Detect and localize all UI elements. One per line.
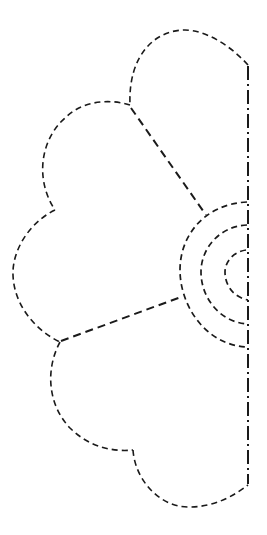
petal-lower-outline bbox=[51, 342, 133, 450]
petal-divider-lower bbox=[61, 297, 181, 341]
petal-divider-upper bbox=[131, 108, 206, 215]
center-ring-middle bbox=[201, 225, 247, 324]
petal-bottom-outline bbox=[133, 450, 248, 507]
center-ring-outer bbox=[180, 202, 247, 347]
petal-top-outline bbox=[130, 30, 248, 105]
petal-upper-outline bbox=[43, 102, 130, 210]
center-ring-inner bbox=[225, 250, 248, 300]
flower-template-diagram bbox=[0, 0, 267, 535]
petal-middle-outline bbox=[13, 210, 60, 342]
